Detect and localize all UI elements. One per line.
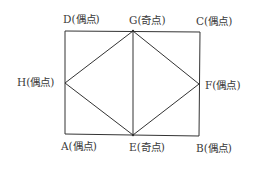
label-b: B(偶点) [196,142,232,154]
point-e-dot [132,134,134,136]
label-g: G(奇点) [129,14,166,26]
point-g-dot [132,30,134,32]
label-a: A(偶点) [61,140,97,152]
label-f: F(偶点) [205,79,240,91]
rhombus-efgh [65,31,199,135]
label-h: H(偶点) [17,76,54,88]
label-d: D(偶点) [63,13,100,25]
label-c: C(偶点) [196,15,232,27]
label-e: E(奇点) [129,141,165,153]
